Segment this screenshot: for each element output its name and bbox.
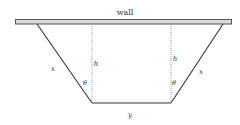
wall-label: wall <box>117 8 134 17</box>
bottom-label: y <box>127 111 133 119</box>
wall-bar <box>16 20 232 25</box>
trapezoid-wall-diagram: wall x h θ h θ x y <box>0 0 240 125</box>
right-side-x <box>171 24 223 103</box>
left-side-x <box>37 24 92 103</box>
right-angle-label: θ <box>172 79 176 87</box>
left-side-label: x <box>51 65 55 73</box>
left-angle-label: θ <box>83 79 87 87</box>
left-height-label: h <box>94 60 99 68</box>
right-height-label: h <box>173 55 178 63</box>
right-side-label: x <box>199 68 203 76</box>
